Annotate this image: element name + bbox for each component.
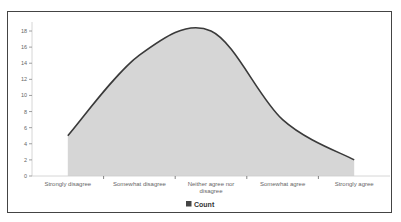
y-tick-label: 16 [21,44,27,50]
area-chart: 024681012141618Strongly disagreeSomewhat… [0,0,401,222]
y-tick-label: 12 [21,76,27,82]
area-fill [68,28,354,176]
y-tick-label: 4 [24,141,27,147]
y-tick-label: 14 [21,60,27,66]
legend-label-count: Count [194,201,215,208]
y-tick-label: 6 [24,125,27,131]
x-tick-label: Neither agree nordisagree [188,181,235,194]
x-tick-label: Strongly disagree [44,181,91,187]
x-tick-label: Somewhat agree [260,181,306,187]
y-tick-label: 0 [24,173,27,179]
legend-swatch-count [186,201,192,207]
y-tick-label: 18 [21,28,27,34]
legend: Count [186,201,215,208]
y-tick-label: 2 [24,157,27,163]
y-tick-label: 10 [21,92,27,98]
x-tick-label: Strongly agree [335,181,375,187]
y-tick-label: 8 [24,109,27,115]
x-tick-label: Somewhat disagree [113,181,167,187]
